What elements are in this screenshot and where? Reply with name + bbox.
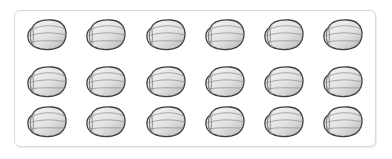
seed-icon <box>204 105 246 138</box>
seed-icon <box>85 105 127 138</box>
seed-icon <box>145 105 187 138</box>
seed-icon <box>263 105 305 138</box>
seed-icon <box>322 105 364 138</box>
seed-icon <box>85 65 127 98</box>
seed-icon <box>204 65 246 98</box>
seed-icon <box>322 18 364 51</box>
seed-icon <box>85 18 127 51</box>
seed-icon <box>204 18 246 51</box>
seed-icon <box>322 65 364 98</box>
seed-icon <box>145 18 187 51</box>
seed-icon <box>26 18 68 51</box>
seed-icon <box>263 65 305 98</box>
seed-icon <box>263 18 305 51</box>
seed-icon <box>145 65 187 98</box>
seed-icon <box>26 105 68 138</box>
seed-icon <box>26 65 68 98</box>
